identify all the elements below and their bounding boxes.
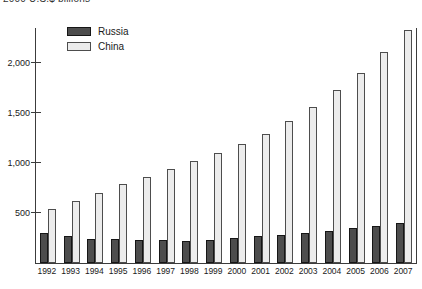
bar-china-2002 bbox=[285, 121, 293, 263]
bar-china-1994 bbox=[95, 193, 103, 264]
bar-china-2001 bbox=[262, 134, 270, 263]
bar-russia-2006 bbox=[372, 226, 380, 263]
bar-group-1997 bbox=[155, 28, 179, 263]
bar-russia-2007 bbox=[396, 223, 404, 263]
bar-group-2006 bbox=[369, 28, 393, 263]
bar-group-1998 bbox=[179, 28, 203, 263]
bar-russia-1995 bbox=[111, 239, 119, 263]
x-tick-label-1998: 1998 bbox=[178, 266, 202, 276]
bar-russia-1998 bbox=[182, 241, 190, 263]
bar-group-2005 bbox=[345, 28, 369, 263]
bar-russia-1992 bbox=[40, 233, 48, 263]
x-tick-label-2004: 2004 bbox=[320, 266, 344, 276]
bar-group-1999 bbox=[202, 28, 226, 263]
x-tick-label-2001: 2001 bbox=[249, 266, 273, 276]
bar-group-2001 bbox=[250, 28, 274, 263]
chart-title: 2000 U.S.$ billions bbox=[3, 0, 90, 4]
bar-group-2000 bbox=[226, 28, 250, 263]
bar-group-1996 bbox=[131, 28, 155, 263]
bar-group-2007 bbox=[392, 28, 416, 263]
bar-russia-1997 bbox=[159, 240, 167, 263]
bar-group-2003 bbox=[297, 28, 321, 263]
bar-russia-2000 bbox=[230, 238, 238, 264]
x-tick-label-2007: 2007 bbox=[391, 266, 415, 276]
bar-group-2002 bbox=[274, 28, 298, 263]
bar-china-2000 bbox=[238, 144, 246, 264]
bar-russia-2001 bbox=[254, 236, 262, 263]
bar-russia-1999 bbox=[206, 240, 214, 263]
bar-china-1999 bbox=[214, 153, 222, 263]
bar-china-1992 bbox=[48, 209, 56, 263]
x-tick-label-2003: 2003 bbox=[296, 266, 320, 276]
x-tick-label-2002: 2002 bbox=[273, 266, 297, 276]
y-tick-500 bbox=[31, 212, 41, 213]
plot-area bbox=[35, 28, 417, 264]
bar-group-1995 bbox=[107, 28, 131, 263]
y-tick-label-1500: 1,500 bbox=[0, 108, 30, 118]
x-tick-label-2006: 2006 bbox=[368, 266, 392, 276]
bar-group-1994 bbox=[84, 28, 108, 263]
bar-china-2007 bbox=[404, 30, 412, 263]
y-tick-1000 bbox=[31, 162, 41, 163]
x-tick-label-1999: 1999 bbox=[201, 266, 225, 276]
bar-russia-2003 bbox=[301, 233, 309, 264]
bar-russia-1993 bbox=[64, 236, 72, 264]
bar-russia-1994 bbox=[87, 239, 95, 264]
bar-china-2006 bbox=[380, 52, 388, 263]
x-tick-label-1993: 1993 bbox=[59, 266, 83, 276]
bar-china-1997 bbox=[167, 169, 175, 264]
bar-china-1993 bbox=[72, 201, 80, 263]
bar-group-1992 bbox=[36, 28, 60, 263]
bar-group-1993 bbox=[60, 28, 84, 263]
bar-china-2005 bbox=[357, 73, 365, 263]
bar-group-2004 bbox=[321, 28, 345, 263]
bar-china-1996 bbox=[143, 177, 151, 264]
bar-china-2004 bbox=[333, 90, 341, 263]
x-tick-label-1997: 1997 bbox=[154, 266, 178, 276]
y-tick-label-500: 500 bbox=[0, 208, 30, 218]
bar-russia-1996 bbox=[135, 240, 143, 263]
bar-china-2003 bbox=[309, 107, 317, 263]
bar-russia-2004 bbox=[325, 231, 333, 264]
bar-china-1998 bbox=[190, 161, 198, 263]
y-tick-label-2000: 2,000 bbox=[0, 58, 30, 68]
y-tick-2000 bbox=[31, 62, 41, 63]
y-tick-label-1000: 1,000 bbox=[0, 158, 30, 168]
chart-figure: 2000 U.S.$ billions Russia China 1992199… bbox=[0, 0, 422, 289]
x-tick-label-1996: 1996 bbox=[130, 266, 154, 276]
x-axis-labels: 1992199319941995199619971998199920002001… bbox=[35, 266, 415, 276]
x-tick-label-1995: 1995 bbox=[106, 266, 130, 276]
x-tick-label-1992: 1992 bbox=[35, 266, 59, 276]
bar-russia-2002 bbox=[277, 235, 285, 264]
bar-russia-2005 bbox=[349, 228, 357, 263]
x-tick-label-1994: 1994 bbox=[83, 266, 107, 276]
x-tick-label-2005: 2005 bbox=[344, 266, 368, 276]
y-tick-1500 bbox=[31, 112, 41, 113]
bars-container bbox=[36, 28, 416, 263]
x-tick-label-2000: 2000 bbox=[225, 266, 249, 276]
bar-china-1995 bbox=[119, 184, 127, 263]
